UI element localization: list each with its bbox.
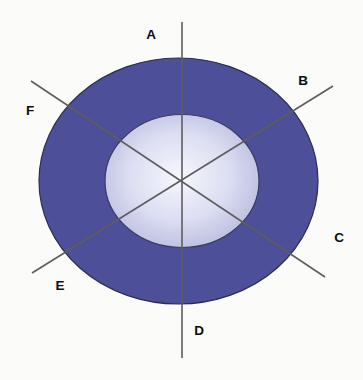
sector-label-e: E — [55, 278, 64, 293]
sector-label-d: D — [194, 323, 204, 338]
sector-diagram-canvas: A B C D E F — [0, 0, 363, 380]
sector-diagram: A B C D E F — [0, 0, 363, 380]
sector-label-f: F — [26, 103, 34, 118]
sector-label-b: B — [298, 73, 308, 88]
sector-label-c: C — [334, 230, 344, 245]
sector-label-a: A — [146, 27, 156, 42]
